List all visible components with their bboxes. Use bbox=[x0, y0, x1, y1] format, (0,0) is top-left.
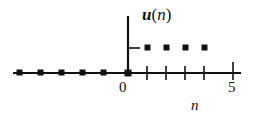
sample-marker-n-minus-6 bbox=[17, 70, 23, 76]
function-label-close-paren: ) bbox=[166, 5, 172, 24]
sample-marker-n-1 bbox=[145, 45, 151, 51]
sample-marker-n-4 bbox=[202, 45, 208, 51]
x-tick-label-5: 5 bbox=[228, 80, 236, 95]
sample-marker-n-minus-2 bbox=[101, 70, 107, 76]
sample-marker-n-0 bbox=[125, 70, 132, 77]
unit-step-figure: u(n) 0 5 n bbox=[0, 0, 256, 126]
sample-marker-n-minus-5 bbox=[38, 70, 44, 76]
sample-marker-n-2 bbox=[164, 45, 170, 51]
plot-canvas bbox=[0, 0, 256, 126]
sample-marker-n-3 bbox=[183, 45, 189, 51]
sample-marker-n-minus-4 bbox=[59, 70, 65, 76]
sample-marker-n-minus-3 bbox=[80, 70, 86, 76]
x-tick-label-0: 0 bbox=[119, 80, 127, 95]
function-label-argument: n bbox=[157, 5, 166, 24]
function-label: u(n) bbox=[142, 6, 171, 23]
x-axis-label: n bbox=[191, 98, 199, 113]
